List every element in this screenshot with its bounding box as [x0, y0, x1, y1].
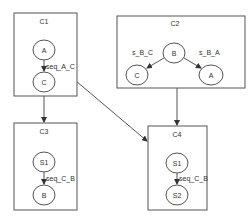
node-c2-a-label: A [209, 72, 214, 79]
node-c4-s1-label: S1 [173, 160, 182, 167]
node-c3-b-label: B [42, 192, 47, 199]
node-c1-c-label: C [41, 79, 46, 86]
edge-c3-label: seq_C_B [46, 175, 75, 183]
edge-c2-ba-label: s_B_A [199, 49, 220, 57]
cluster-c4[interactable]: C4 S1 seq_C_B S2 [148, 126, 208, 210]
cluster-c3[interactable]: C3 S1 seq_C_B B [14, 123, 77, 210]
node-c3-s1-label: S1 [40, 159, 49, 166]
cluster-c1[interactable]: C1 A seq_A_C C [14, 13, 77, 96]
cluster-c4-title: C4 [173, 131, 182, 138]
cluster-c3-title: C3 [40, 128, 49, 135]
cluster-c2-title: C2 [171, 20, 180, 27]
edge-c2-bc-label: s_B_C [132, 49, 153, 57]
cluster-c1-title: C1 [40, 18, 49, 25]
node-c4-s2-label: S2 [173, 192, 182, 199]
diagram-canvas: C1 A seq_A_C C C2 B s_B_C s_B_A C A C3 S… [0, 0, 249, 220]
edge-c4-label: seq_C_B [179, 175, 208, 183]
node-c2-b-label: B [172, 50, 177, 57]
edge-c1-label: seq_A_C [46, 63, 75, 71]
cluster-c2[interactable]: C2 B s_B_C s_B_A C A [117, 16, 245, 88]
node-c2-c-label: C [134, 72, 139, 79]
node-c1-a-label: A [42, 47, 47, 54]
link-c1-c4[interactable] [76, 81, 147, 141]
